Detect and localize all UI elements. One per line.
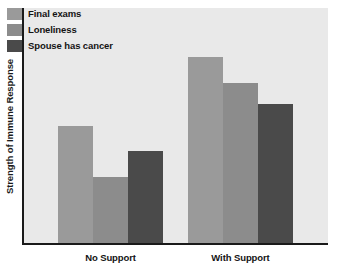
bar [93, 177, 128, 243]
x-axis-line [22, 243, 328, 245]
legend-item: Spouse has cancer [7, 39, 113, 52]
y-axis-title-text: Strength of Immune Response [5, 59, 16, 194]
legend-swatch-icon [7, 8, 22, 20]
legend-label: Loneliness [28, 24, 77, 35]
x-axis-tick-label: With Support [211, 252, 269, 263]
legend-label: Spouse has cancer [28, 40, 113, 51]
legend-swatch-icon [7, 24, 22, 36]
bar [223, 83, 258, 243]
x-axis-tick-label: No Support [85, 252, 136, 263]
legend-item: Final exams [7, 7, 113, 20]
legend-label: Final exams [28, 8, 81, 19]
bar-chart-figure: Strength of Immune Response Final examsL… [0, 0, 342, 278]
bar [128, 151, 163, 243]
legend-item: Loneliness [7, 23, 113, 36]
chart-legend: Final examsLonelinessSpouse has cancer [7, 7, 113, 52]
bar [258, 104, 293, 243]
bar [188, 57, 223, 243]
bar [58, 126, 93, 244]
legend-swatch-icon [7, 40, 22, 52]
